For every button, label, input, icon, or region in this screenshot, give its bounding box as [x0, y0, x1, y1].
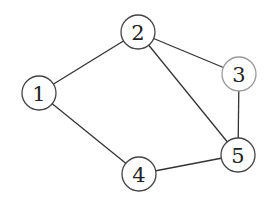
nodes-group: 12345	[22, 15, 256, 191]
edge-2-5	[138, 32, 238, 155]
node-3: 3	[222, 57, 256, 91]
node-label: 4	[132, 163, 145, 187]
node-4: 4	[122, 157, 156, 191]
node-2: 2	[121, 15, 155, 49]
node-label: 2	[131, 21, 144, 45]
node-1: 1	[22, 76, 56, 110]
graph-diagram: 12345	[0, 0, 267, 201]
edges-group	[39, 32, 239, 174]
node-label: 5	[231, 144, 244, 168]
node-5: 5	[221, 138, 255, 172]
node-label: 1	[32, 82, 45, 106]
edge-1-4	[39, 93, 139, 174]
node-label: 3	[232, 63, 245, 87]
